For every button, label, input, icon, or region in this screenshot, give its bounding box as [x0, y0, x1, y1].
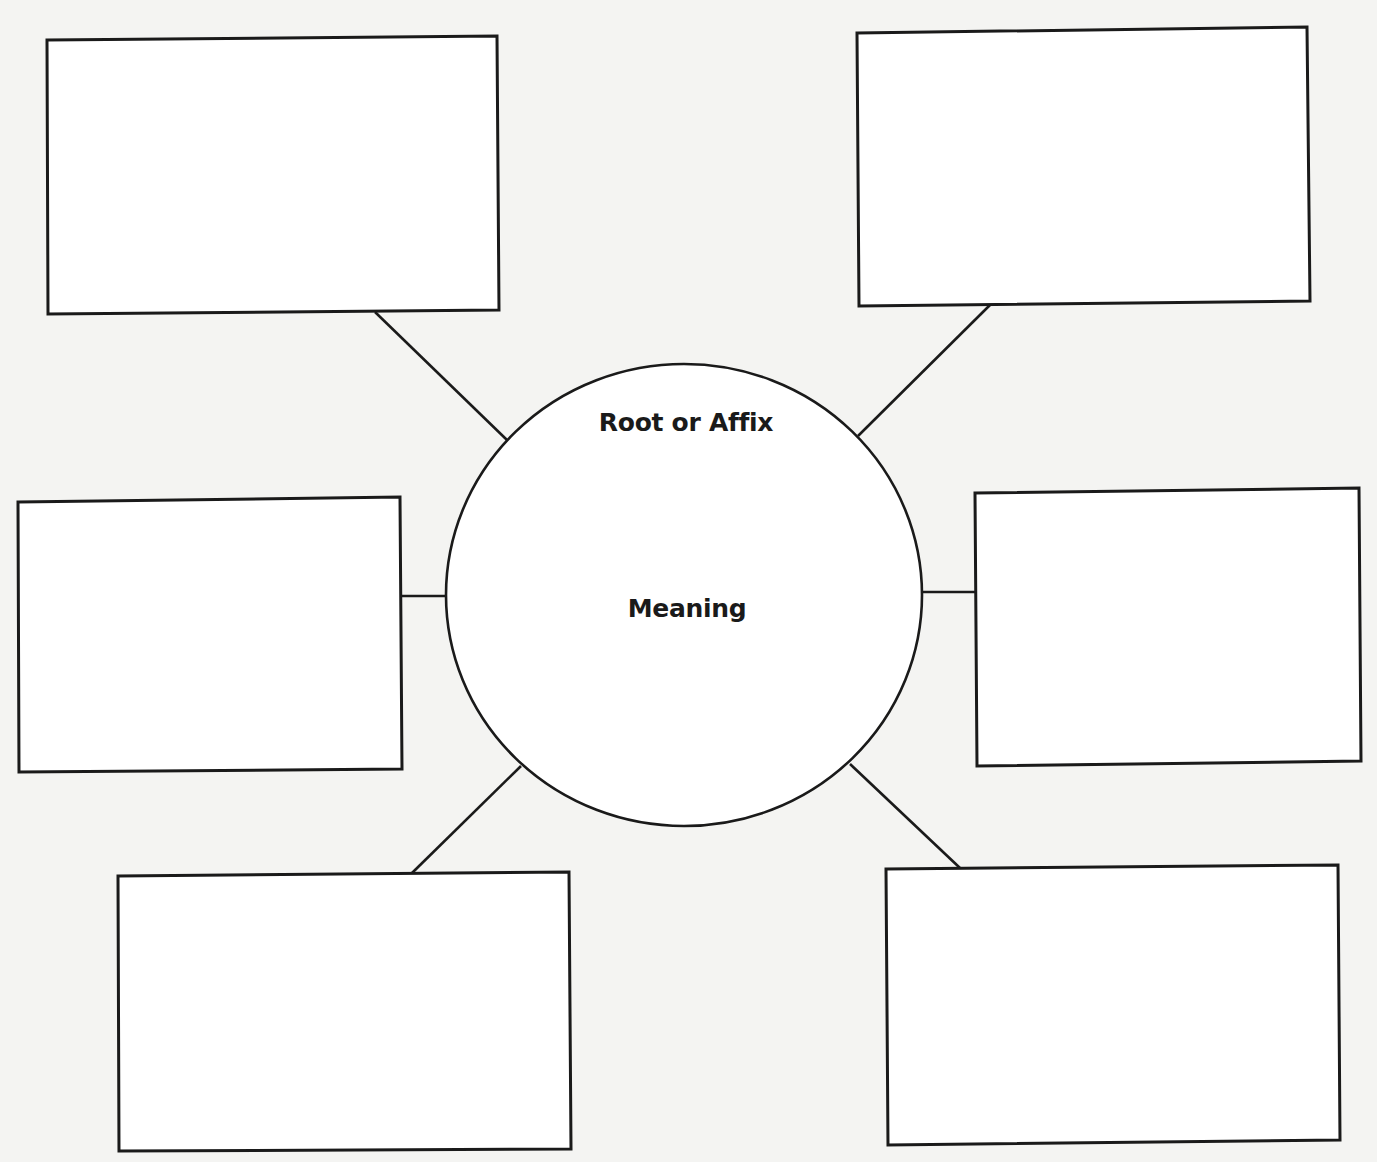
connector-bottom-left — [412, 766, 521, 873]
box-top-right[interactable] — [857, 27, 1310, 306]
box-top-left[interactable] — [47, 36, 499, 314]
meaning-label: Meaning — [628, 594, 747, 623]
word-web-diagram — [0, 0, 1377, 1162]
box-middle-right[interactable] — [975, 488, 1361, 766]
box-middle-left[interactable] — [18, 497, 402, 772]
connector-top-right — [858, 305, 990, 436]
box-bottom-left[interactable] — [118, 872, 571, 1151]
box-bottom-right[interactable] — [886, 865, 1340, 1145]
connector-top-left — [375, 312, 507, 440]
root-or-affix-label: Root or Affix — [599, 408, 773, 437]
connector-bottom-right — [850, 764, 960, 868]
